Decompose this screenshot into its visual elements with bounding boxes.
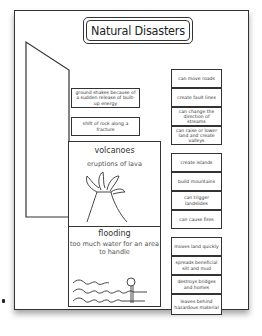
effect-card[interactable]: can cause fires — [171, 210, 222, 229]
panel-flooding[interactable]: flooding too much water for an area to h… — [68, 226, 161, 307]
effect-card[interactable]: moves land quickly — [171, 237, 222, 256]
effect-card[interactable]: can change the direction of streams — [171, 107, 222, 126]
edge-marker — [2, 299, 5, 303]
effect-card[interactable]: leaves behind hazardous material — [171, 294, 222, 315]
panel-subtitle: too much water for an area to handle — [69, 241, 160, 256]
effect-card[interactable]: build mountains — [171, 172, 222, 191]
panel-heading: flooding — [69, 229, 160, 238]
effect-card[interactable]: can trigger landslides — [171, 191, 222, 210]
effect-card[interactable]: destroys bridges and homes — [171, 275, 222, 294]
effect-card[interactable]: spreads beneficial silt and mud — [171, 256, 222, 275]
flood-waves-icon — [71, 277, 159, 305]
effect-card[interactable]: can raise or lower land and create valle… — [171, 126, 222, 145]
volcano-icon — [77, 170, 137, 225]
panel-subtitle: eruptions of lava — [69, 161, 160, 169]
effect-card[interactable]: create islands — [171, 153, 222, 172]
definition-card-fault[interactable]: shift of rock along a fracture — [71, 117, 140, 136]
definition-card-earthquake[interactable]: ground shakes because of a sudden releas… — [71, 88, 140, 108]
effect-card[interactable]: create fault lines — [171, 88, 222, 107]
panel-heading: volcanoes — [69, 146, 160, 155]
effect-card[interactable]: can move roads — [171, 69, 222, 88]
panel-volcanoes[interactable]: volcanoes eruptions of lava — [68, 141, 161, 227]
